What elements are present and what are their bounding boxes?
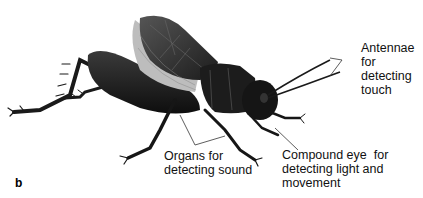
figure: Antennae for detecting touch Organs for … bbox=[0, 0, 423, 198]
panel-letter: b bbox=[15, 176, 22, 190]
hind-leg-left bbox=[8, 60, 100, 116]
label-antennae: Antennae for detecting touch bbox=[361, 41, 415, 97]
antennae bbox=[268, 60, 340, 98]
label-compound-eye: Compound eye for detecting light and mov… bbox=[282, 148, 388, 190]
label-sound-organs: Organs for detecting sound bbox=[164, 149, 252, 177]
